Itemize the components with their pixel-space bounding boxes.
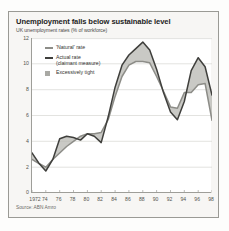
legend-item-excessively-tight: Excessively tight xyxy=(45,69,135,78)
x-tick-78: 78 xyxy=(66,196,80,202)
x-tick-76: 76 xyxy=(52,196,66,202)
legend-label-natural: 'Natural' rate xyxy=(56,44,85,51)
x-tick-98: 98 xyxy=(204,196,218,202)
y-tick-4: 4 xyxy=(15,139,29,144)
x-axis-ticks xyxy=(32,190,212,193)
chart-source: Source: ABN Amro xyxy=(16,205,56,210)
y-tick-8: 8 xyxy=(15,87,29,92)
chart-subtitle: UK unemployment rates (% of workforce) xyxy=(16,27,212,34)
legend-box-swatch-tight xyxy=(45,71,50,76)
x-tick-80: 80 xyxy=(79,196,93,202)
x-tick-82: 82 xyxy=(93,196,107,202)
chart-page: Unemployment falls below sustainable lev… xyxy=(0,0,229,231)
legend-line-swatch-actual xyxy=(45,57,53,59)
y-tick-0: 0 xyxy=(15,190,29,195)
chart-legend: 'Natural' rate Actual rate (claimant mea… xyxy=(45,44,135,79)
y-tick-12: 12 xyxy=(15,36,29,41)
x-tick-86: 86 xyxy=(121,196,135,202)
chart-card: Unemployment falls below sustainable lev… xyxy=(8,11,219,218)
x-tick-92: 92 xyxy=(163,196,177,202)
legend-item-actual-rate: Actual rate (claimant measure) xyxy=(45,54,135,68)
x-tick-96: 96 xyxy=(190,196,204,202)
legend-label-tight: Excessively tight xyxy=(56,69,94,76)
legend-item-natural-rate: 'Natural' rate xyxy=(45,44,135,53)
y-tick-10: 10 xyxy=(15,61,29,66)
x-tick-74: 74 xyxy=(38,196,52,202)
y-tick-6: 6 xyxy=(15,113,29,118)
x-tick-90: 90 xyxy=(149,196,163,202)
x-tick-84: 84 xyxy=(107,196,121,202)
x-tick-94: 94 xyxy=(176,196,190,202)
legend-line-swatch-natural xyxy=(45,47,53,49)
x-tick-88: 88 xyxy=(135,196,149,202)
chart-title: Unemployment falls below sustainable lev… xyxy=(16,17,212,26)
y-tick-2: 2 xyxy=(15,165,29,170)
legend-sublabel-actual: (claimant measure) xyxy=(56,60,100,67)
